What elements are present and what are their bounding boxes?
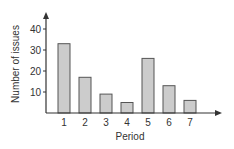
bar-1 <box>58 44 70 113</box>
y-tick-label: 20 <box>30 66 42 77</box>
x-tick-label: 4 <box>124 117 130 128</box>
y-tick-label: 30 <box>30 45 42 56</box>
y-tick-label: 10 <box>30 87 42 98</box>
bar-6 <box>163 86 175 113</box>
y-axis-arrow-icon <box>43 12 49 19</box>
y-tick-label: 40 <box>30 24 42 35</box>
bar-2 <box>79 77 91 113</box>
x-tick-label: 6 <box>166 117 172 128</box>
x-tick-label: 2 <box>82 117 88 128</box>
bar-4 <box>121 103 133 114</box>
x-axis-arrow-icon <box>215 110 222 116</box>
x-tick-label: 7 <box>187 117 193 128</box>
chart-canvas: 123456710203040PeriodNumber of issues <box>0 0 234 149</box>
x-tick-label: 5 <box>145 117 151 128</box>
bar-3 <box>100 94 112 113</box>
bar-5 <box>142 58 154 113</box>
x-tick-label: 3 <box>103 117 109 128</box>
bar-7 <box>184 100 196 113</box>
y-axis-label: Number of issues <box>10 25 21 103</box>
x-tick-label: 1 <box>61 117 67 128</box>
bar-chart: 123456710203040PeriodNumber of issues <box>0 0 234 149</box>
x-axis-label: Period <box>116 131 145 142</box>
